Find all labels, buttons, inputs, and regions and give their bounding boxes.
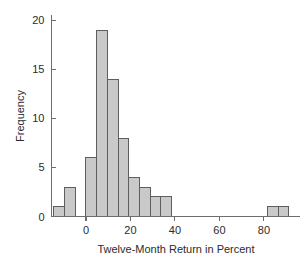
histogram-bar xyxy=(150,197,161,217)
x-axis-ticks xyxy=(86,217,264,221)
y-tick-label: 15 xyxy=(32,63,44,75)
x-tick-label: 60 xyxy=(213,224,225,236)
x-axis-tick-labels: 020406080 xyxy=(83,224,270,236)
x-tick-label: 0 xyxy=(83,224,89,236)
x-tick-label: 20 xyxy=(124,224,136,236)
histogram-bar xyxy=(278,207,289,217)
histogram-bar xyxy=(54,207,65,217)
y-tick-label: 20 xyxy=(32,14,44,26)
histogram-figure: 05101520 020406080 Frequency Twelve-Mont… xyxy=(0,0,305,263)
y-axis-ticks xyxy=(52,20,56,216)
histogram-bar xyxy=(267,207,278,217)
y-tick-label: 5 xyxy=(38,161,44,173)
y-tick-label: 10 xyxy=(32,112,44,124)
histogram-bar xyxy=(107,79,118,216)
x-tick-label: 40 xyxy=(169,224,181,236)
histogram-bar xyxy=(161,197,172,217)
histogram-plot: 05101520 020406080 Frequency Twelve-Mont… xyxy=(0,0,305,263)
histogram-bar xyxy=(86,158,97,217)
x-tick-label: 80 xyxy=(258,224,270,236)
histogram-bar xyxy=(139,187,150,216)
y-axis-tick-labels: 05101520 xyxy=(32,14,44,222)
histogram-bar xyxy=(118,138,129,216)
y-tick-label: 0 xyxy=(38,211,44,223)
x-axis-title: Twelve-Month Return in Percent xyxy=(97,243,254,255)
bars-group xyxy=(54,30,289,216)
histogram-bar xyxy=(97,30,108,216)
histogram-bar xyxy=(129,177,140,216)
y-axis-title: Frequency xyxy=(14,90,26,142)
histogram-bar xyxy=(65,187,76,216)
